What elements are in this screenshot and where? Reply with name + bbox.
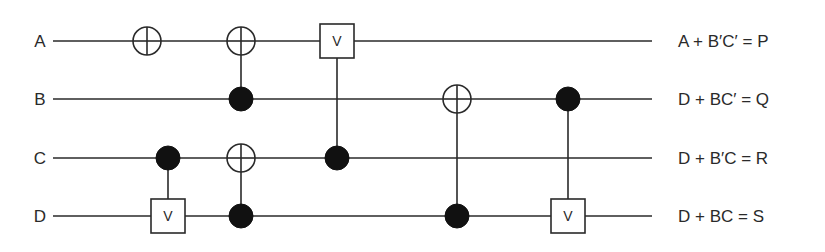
v-gate-label: V (163, 208, 173, 224)
control-dot-icon (445, 204, 469, 228)
output-label-q: D + BC′ = Q (678, 91, 769, 108)
control-dot-icon (556, 87, 580, 111)
v-gate-label: V (563, 208, 573, 224)
output-label-s: D + BC = S (678, 208, 764, 225)
input-label-d: D (34, 208, 46, 225)
control-dot-icon (325, 146, 349, 170)
input-label-c: C (34, 150, 46, 167)
output-label-r: D + B′C = R (678, 150, 768, 167)
input-label-a: A (34, 33, 45, 50)
control-dot-icon (229, 87, 253, 111)
control-dot-icon (156, 146, 180, 170)
input-label-b: B (34, 91, 45, 108)
output-label-p: A + B′C′ = P (678, 33, 768, 50)
control-dot-icon (229, 204, 253, 228)
v-gate-label: V (332, 33, 342, 49)
circuit-diagram: VVV A B C D A + B′C′ = P D + BC′ = Q D +… (0, 0, 825, 252)
